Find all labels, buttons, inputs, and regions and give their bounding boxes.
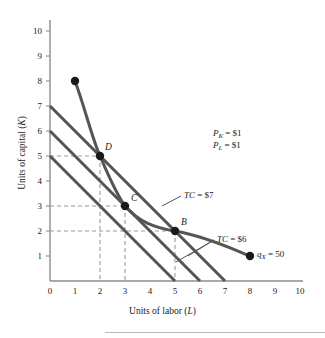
marker-point-C <box>121 202 129 210</box>
x-tick-6: 6 <box>192 286 208 296</box>
y-tick-1: 1 <box>28 251 42 261</box>
marker-point-D <box>96 152 104 160</box>
x-axis-title: Units of labor (L) <box>0 306 325 316</box>
y-tick-6: 6 <box>28 126 42 136</box>
y-tick-3: 3 <box>28 201 42 211</box>
y-axis-title: Units of capital (K) <box>17 83 27 223</box>
leader-line-tc6-b <box>176 240 214 262</box>
annotation-tc7: TC = $7 <box>184 190 214 200</box>
leader-line-tc7 <box>162 196 181 206</box>
marker-point-B <box>171 227 179 235</box>
marker-endpoint-top <box>71 77 79 85</box>
x-tick-2: 2 <box>92 286 108 296</box>
x-tick-1: 1 <box>67 286 83 296</box>
x-tick-8: 8 <box>242 286 258 296</box>
point-label-B: B <box>181 217 187 227</box>
x-tick-4: 4 <box>142 286 158 296</box>
isoquant-isocost-figure: 0 1 2 3 4 5 6 7 8 9 10 1 2 3 4 5 6 7 8 9… <box>0 0 325 338</box>
x-tick-0: 0 <box>42 286 58 296</box>
y-tick-2: 2 <box>28 226 42 236</box>
x-tick-7: 7 <box>217 286 233 296</box>
guide-line-C <box>50 206 125 281</box>
y-tick-10: 10 <box>28 26 42 36</box>
point-label-D: D <box>105 142 112 152</box>
x-tick-3: 3 <box>117 286 133 296</box>
y-tick-4: 4 <box>28 176 42 186</box>
y-tick-8: 8 <box>28 76 42 86</box>
y-tick-5: 5 <box>28 151 42 161</box>
x-tick-9: 9 <box>267 286 283 296</box>
point-label-C: C <box>131 193 137 203</box>
price-parameters-block: PK = $1 PL = $1 <box>213 128 242 153</box>
annotation-price-capital: PK = $1 <box>213 128 242 140</box>
isocost-line-tc5 <box>50 156 175 281</box>
footer-divider <box>105 332 325 333</box>
x-tick-5: 5 <box>167 286 183 296</box>
marker-endpoint-bottom <box>246 252 254 260</box>
annotation-price-labor: PL = $1 <box>213 140 242 152</box>
annotation-tc6: TC = $6 <box>217 234 247 244</box>
y-tick-7: 7 <box>28 101 42 111</box>
x-tick-10: 10 <box>292 286 308 296</box>
annotation-isoquant: qX = 50 <box>257 249 284 260</box>
isoquant-curve <box>75 81 250 256</box>
y-tick-9: 9 <box>28 51 42 61</box>
